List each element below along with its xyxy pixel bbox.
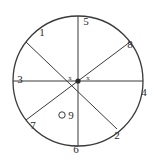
center-dot — [75, 78, 80, 83]
angle-mark-x-left: x — [68, 74, 72, 82]
open-circle-marker-9-icon — [59, 112, 65, 118]
label-5: 5 — [83, 15, 89, 27]
label-2: 2 — [114, 129, 120, 141]
label-8: 8 — [127, 38, 133, 50]
diagram-canvas: x x 1 5 8 3 4 7 9 2 6 — [0, 0, 157, 165]
circle-sector-diagram: x x 1 5 8 3 4 7 9 2 6 — [0, 0, 157, 165]
label-3: 3 — [17, 73, 23, 85]
label-6: 6 — [73, 143, 79, 155]
label-4: 4 — [141, 86, 147, 98]
label-1: 1 — [39, 26, 45, 38]
label-7: 7 — [30, 119, 36, 131]
label-9: 9 — [68, 109, 74, 121]
angle-mark-x-right: x — [86, 74, 90, 82]
